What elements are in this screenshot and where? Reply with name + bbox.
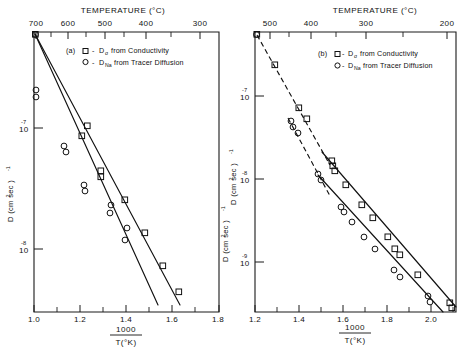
panel-a-bottom-axis-title: 1000 T(°K) xyxy=(110,325,142,347)
svg-text:D (cm sec ): D (cm sec ) xyxy=(229,163,238,205)
panel-a-legend-dash-0: - xyxy=(92,46,95,55)
panel-b-top-axis-title: TEMPERATURE (°C) xyxy=(333,6,417,15)
panel-b-legend-symbol-1: D xyxy=(348,61,353,70)
panel-a-y-axis-title: D (cm sec ) 2 -1 xyxy=(5,166,16,222)
panel-b-y-tick-label-1e-8: -8 10 xyxy=(240,170,250,185)
panel-a-legend-symbol-0: D xyxy=(99,46,104,55)
panel-a-legend: (a) - D σ from Conductivity - D Na from … xyxy=(66,46,184,68)
panel-a-legend-symbol-1: D xyxy=(99,58,104,67)
data-point-circle xyxy=(107,210,113,216)
panel-b-bottom-tick-label-1: 1.4 xyxy=(293,315,305,324)
panel-b-ylab-sup1: 2 xyxy=(228,178,234,181)
panel-a-ylab-sup1: 2 xyxy=(5,195,11,198)
panel-b-y-ticks xyxy=(255,96,264,262)
panel-b-bottom-title-denominator: T(°K) xyxy=(344,336,365,345)
panel-a-legend-subscript-1: Na xyxy=(105,62,112,68)
panel-a-y-tick-label-1e-8: -8 10 xyxy=(19,240,29,255)
data-point-square xyxy=(343,182,349,188)
data-point-circle xyxy=(315,171,321,177)
panel-b-bottom-ticks xyxy=(255,305,453,312)
panel-b-bottom-tick-label-3: 1.8 xyxy=(381,315,393,324)
data-point-circle xyxy=(397,274,403,280)
panel-b-bottom-axis-title: 1000 T(°K) xyxy=(339,323,371,345)
panel-b-bottom-tick-label-2: 1.6 xyxy=(337,315,349,324)
panel-b-fitline-tracer-solid xyxy=(318,175,443,312)
panel-a-plot-frame xyxy=(34,32,219,312)
panel-b-top-tick-label-200: 200 xyxy=(440,19,455,28)
data-point-circle xyxy=(361,234,367,240)
panel-a-bottom-tick-label-1: 1.2 xyxy=(74,315,86,324)
panel-a-bottom-ticks xyxy=(34,305,219,312)
panel-b-top-ticks xyxy=(270,32,447,39)
data-point-square xyxy=(304,116,310,122)
panel-a-legend-text-0: from Conductivity xyxy=(111,46,169,55)
panel-a-right-edge-ylabel: D (cm sec ) 2 -1 xyxy=(220,206,231,262)
panel-a-fitline-tracer xyxy=(35,34,158,305)
data-point-square xyxy=(98,168,104,174)
panel-a-legend-text-1: from Tracer Diffusion xyxy=(114,58,184,67)
data-point-circle xyxy=(372,246,378,252)
figure-container: TEMPERATURE (°C) 700 600 500 400 300 xyxy=(0,0,467,352)
panel-b-ylab-main-dup: D (cm sec ) xyxy=(221,220,230,262)
panel-b-plot-frame xyxy=(255,32,456,312)
panel-b-legend-subscript-1: Na xyxy=(354,65,361,71)
panel-a-ylab-sup2: -1 xyxy=(5,166,11,171)
data-point-circle xyxy=(349,219,355,225)
panel-a-bottom-tick-label-0: 1.0 xyxy=(28,315,40,324)
panel-b-legend-panel-label: (b) xyxy=(318,49,327,58)
panel-b-legend: (b) - D σ from Conductivity - D Na from … xyxy=(318,49,433,71)
panel-a-bottom-tick-label-3: 1.6 xyxy=(166,315,178,324)
panel-b-y-tick-label-1e-9: -9 10 xyxy=(240,253,250,268)
panel-b-top-tick-label-300: 300 xyxy=(359,19,374,28)
panel-b-y-axis-title: D (cm sec ) 2 -1 xyxy=(228,149,239,205)
data-point-square xyxy=(392,246,398,252)
panel-b-series-tracer-points xyxy=(254,32,433,305)
panel-b-legend-dash-0: - xyxy=(342,49,345,58)
panel-a-top-tick-label-500: 500 xyxy=(98,19,113,28)
data-point-square xyxy=(370,215,376,221)
panel-a-bottom-title-denominator: T(°K) xyxy=(115,338,136,347)
data-point-square xyxy=(359,202,365,208)
panel-b-y-mantissa-2: 10 xyxy=(240,259,250,268)
panel-a-legend-circle-marker xyxy=(83,59,88,64)
panel-a-fitline-conductivity xyxy=(35,34,180,305)
panel-a-y-mantissa-0: 10 xyxy=(19,125,29,134)
panel-a-legend-square-marker xyxy=(83,49,88,54)
panel-b-top-tick-label-400: 400 xyxy=(304,19,319,28)
data-point-circle xyxy=(81,182,87,188)
panel-a-bottom-title-numerator: 1000 xyxy=(116,325,136,334)
panel-a-top-tick-label-300: 300 xyxy=(193,19,208,28)
panel-b-y-mantissa-1: 10 xyxy=(240,176,250,185)
panel-b-top-tick-label-500: 500 xyxy=(263,19,278,28)
panel-b-y-mantissa-0: 10 xyxy=(240,93,250,102)
panel-b-ylab-sup2: -1 xyxy=(228,149,234,154)
data-point-square xyxy=(176,289,182,295)
data-point-circle xyxy=(82,188,88,194)
panel-b-bottom-tick-label-4: 2.0 xyxy=(425,315,437,324)
panel-b-legend-square-marker xyxy=(335,52,340,57)
panel-b-ylab-sup1-dup: 2 xyxy=(220,235,226,238)
data-point-square xyxy=(415,272,421,278)
data-point-circle xyxy=(427,299,433,305)
panel-a: TEMPERATURE (°C) 700 600 500 400 300 xyxy=(5,6,231,347)
panel-b-ylab-main: D (cm sec ) xyxy=(229,163,238,205)
panel-b: TEMPERATURE (°C) 500 400 300 200 xyxy=(228,6,457,345)
panel-a-y-tick-label-1e-7: -7 10 xyxy=(19,119,29,134)
panel-b-ylab-sup2-dup: -1 xyxy=(220,206,226,211)
data-point-circle xyxy=(63,149,69,155)
svg-text:D (cm sec ): D (cm sec ) xyxy=(6,180,15,222)
data-point-circle xyxy=(391,267,397,273)
panel-a-top-tick-label-700: 700 xyxy=(29,19,44,28)
panel-a-top-axis-title: TEMPERATURE (°C) xyxy=(81,6,165,15)
panel-b-legend-subscript-0: σ xyxy=(354,53,358,59)
data-point-circle xyxy=(61,143,67,149)
panel-a-ylab-main: D (cm sec ) xyxy=(6,180,15,222)
panel-a-legend-subscript-0: σ xyxy=(105,50,109,56)
panel-b-legend-dash-1: - xyxy=(342,61,345,70)
panel-a-bottom-tick-label-4: 1.8 xyxy=(212,315,224,324)
figure-svg: TEMPERATURE (°C) 700 600 500 400 300 xyxy=(0,0,467,352)
panel-a-y-mantissa-1: 10 xyxy=(19,246,29,255)
svg-text:D (cm sec ): D (cm sec ) xyxy=(221,220,230,262)
panel-b-fitline-conductivity-solid xyxy=(322,152,456,307)
data-point-square xyxy=(397,252,403,258)
